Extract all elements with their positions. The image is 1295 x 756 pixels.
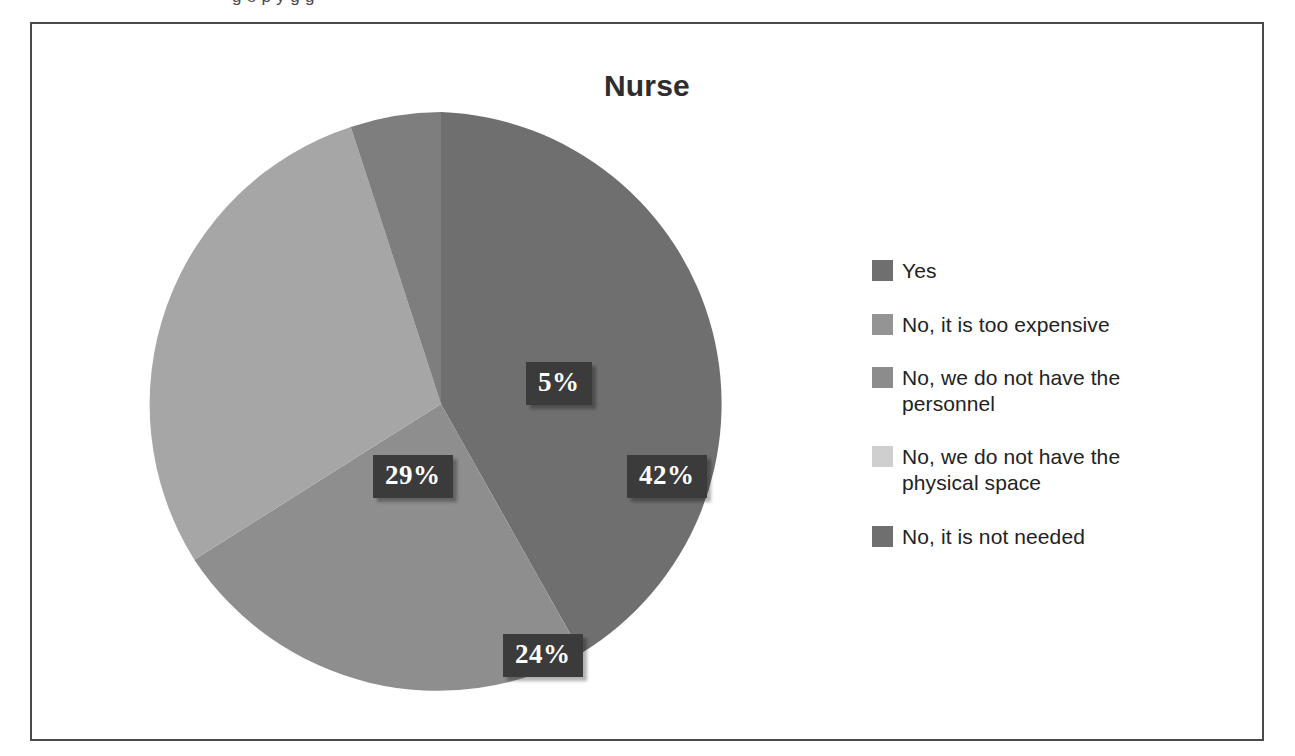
pie-label-physical-space: 5% bbox=[526, 362, 592, 405]
legend-item-personnel[interactable]: No, we do not have the personnel bbox=[872, 365, 1202, 416]
legend-label: No, we do not have the personnel bbox=[902, 365, 1157, 416]
legend-label: Yes bbox=[902, 258, 937, 284]
pie-label-yes: 42% bbox=[627, 455, 707, 498]
legend-swatch-icon bbox=[872, 260, 893, 281]
legend-swatch-icon bbox=[872, 367, 893, 388]
legend-label: No, we do not have the physical space bbox=[902, 444, 1157, 495]
chart-frame: Nurse 42% 29% 24% 5% Yes No, it is too e… bbox=[30, 22, 1264, 741]
cropped-text-sliver: g e p y g g bbox=[0, 0, 1295, 12]
legend-label: No, it is not needed bbox=[902, 524, 1085, 550]
legend-swatch-icon bbox=[872, 526, 893, 547]
pie-label-personnel: 29% bbox=[373, 455, 453, 498]
legend-item-not-needed[interactable]: No, it is not needed bbox=[872, 524, 1202, 550]
legend-item-yes[interactable]: Yes bbox=[872, 258, 1202, 284]
pie-chart: 42% 29% 24% 5% bbox=[145, 108, 737, 700]
legend-item-too-expensive[interactable]: No, it is too expensive bbox=[872, 312, 1202, 338]
cropped-text-line: g e p y g g bbox=[232, 0, 315, 7]
pie-svg bbox=[145, 108, 737, 700]
legend-label: No, it is too expensive bbox=[902, 312, 1110, 338]
chart-title: Nurse bbox=[32, 69, 1262, 103]
legend-swatch-icon bbox=[872, 314, 893, 335]
legend-item-physical-space[interactable]: No, we do not have the physical space bbox=[872, 444, 1202, 495]
chart-legend: Yes No, it is too expensive No, we do no… bbox=[872, 258, 1202, 577]
legend-swatch-icon bbox=[872, 446, 893, 467]
pie-label-too-expensive: 24% bbox=[503, 634, 583, 677]
